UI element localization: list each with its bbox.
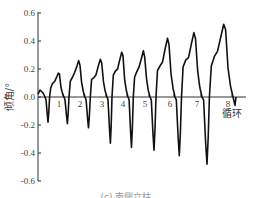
inclination-series-line — [38, 24, 236, 164]
y-tick-label: -0.4 — [21, 148, 36, 158]
x-axis-label: 循环 — [222, 107, 242, 119]
inclination-cycle-chart: 0.60.40.20.0-0.2-0.4-0.6 12345678 倾角/° 循… — [0, 0, 253, 198]
y-axis-label: 倾角/° — [3, 83, 15, 111]
y-tick-label: -0.6 — [21, 176, 36, 186]
x-tick-label: 2 — [78, 99, 83, 109]
x-tick-label: 1 — [57, 99, 62, 109]
y-tick-label: 0.0 — [24, 92, 36, 102]
x-ticks: 12345678 — [57, 94, 232, 109]
y-tick-label: 0.4 — [24, 36, 36, 46]
y-tick-label: -0.2 — [21, 120, 35, 130]
figure-caption: (c) 南侧立柱 — [101, 191, 152, 198]
x-tick-label: 5 — [143, 99, 148, 109]
x-tick-label: 3 — [100, 99, 105, 109]
x-tick-label: 7 — [195, 99, 200, 109]
x-tick-label: 4 — [121, 99, 126, 109]
x-tick-label: 6 — [168, 99, 173, 109]
y-tick-label: 0.6 — [24, 8, 36, 18]
y-tick-label: 0.2 — [24, 64, 35, 74]
